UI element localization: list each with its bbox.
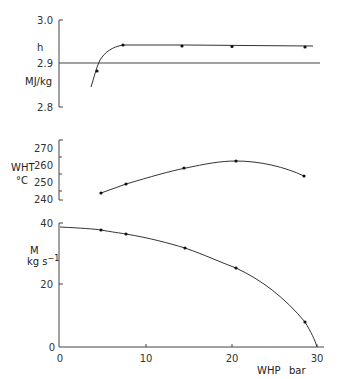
wht-tick-250: 250 bbox=[34, 177, 53, 188]
h-tick-2.8: 2.8 bbox=[37, 102, 53, 113]
wht-data-point bbox=[302, 174, 305, 177]
h-axis-label: h bbox=[37, 42, 43, 53]
m-axis-unit: kg s−1 bbox=[27, 254, 59, 267]
h-panel: 3.0 2.9 2.8 h MJ/kg bbox=[25, 15, 320, 113]
m-axes bbox=[59, 223, 324, 347]
h-tick-3.0: 3.0 bbox=[37, 15, 53, 26]
wht-data-point bbox=[234, 159, 237, 162]
m-data-point bbox=[183, 246, 186, 249]
m-axis-label: M bbox=[30, 245, 39, 256]
h-data-point bbox=[121, 43, 124, 46]
m-tick-40: 40 bbox=[40, 218, 53, 229]
x-tick-20: 20 bbox=[226, 353, 239, 364]
wht-axis-label: WHT bbox=[11, 162, 35, 173]
wht-data-point bbox=[99, 191, 102, 194]
wht-axis-unit: °C bbox=[16, 175, 28, 186]
wht-data-point bbox=[124, 182, 127, 185]
x-tick-10: 10 bbox=[140, 353, 153, 364]
h-data-point bbox=[303, 45, 306, 48]
x-tick-0: 0 bbox=[57, 353, 63, 364]
wht-tick-240: 240 bbox=[34, 194, 53, 205]
m-axis-unit-exp: −1 bbox=[48, 254, 60, 263]
x-axis-label: WHP bbox=[257, 365, 280, 376]
h-data-point bbox=[95, 69, 98, 72]
wht-tick-260: 260 bbox=[34, 160, 53, 171]
m-curve bbox=[60, 227, 317, 347]
wht-curve bbox=[101, 161, 304, 193]
m-data-point bbox=[124, 232, 127, 235]
h-tick-2.9: 2.9 bbox=[37, 58, 53, 69]
wht-data-point bbox=[182, 166, 185, 169]
wht-tick-270: 270 bbox=[34, 143, 53, 154]
m-data-point bbox=[99, 228, 102, 231]
m-tick-0: 0 bbox=[49, 342, 55, 353]
x-axis-unit: bar bbox=[289, 365, 306, 376]
figure: 3.0 2.9 2.8 h MJ/kg 270 260 250 240 WHT … bbox=[0, 0, 338, 379]
m-data-point bbox=[303, 320, 306, 323]
m-axis-unit-base: kg s bbox=[27, 256, 48, 267]
m-panel: 40 20 0 M kg s−1 0 10 20 30 WHP bar bbox=[27, 218, 324, 376]
x-tick-30: 30 bbox=[311, 353, 324, 364]
h-data-point bbox=[230, 45, 233, 48]
m-data-point bbox=[234, 266, 237, 269]
h-curve bbox=[91, 45, 313, 87]
h-axis-unit: MJ/kg bbox=[25, 76, 52, 87]
h-data-point bbox=[180, 44, 183, 47]
m-tick-20: 20 bbox=[40, 279, 53, 290]
wht-panel: 270 260 250 240 WHT °C bbox=[11, 140, 306, 205]
